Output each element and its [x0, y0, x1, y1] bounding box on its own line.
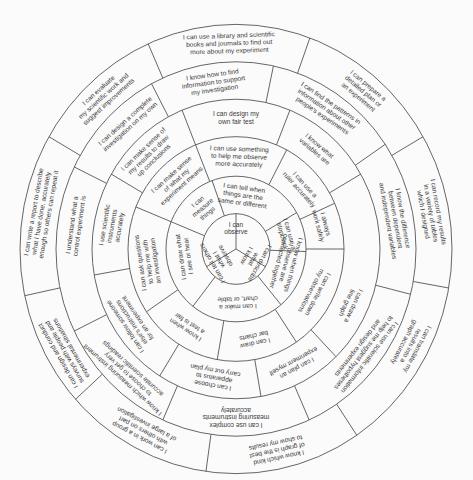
- skill-segment: I know which measuring instrumentto choo…: [82, 331, 174, 417]
- skill-segment: I can drawbar charts: [238, 329, 271, 350]
- skill-segment: I can use a library and scientificbooks …: [183, 30, 276, 56]
- segment-divider: [330, 174, 361, 193]
- segment-divider: [146, 290, 178, 312]
- segment-divider: [151, 84, 168, 117]
- segment-divider: [255, 360, 261, 397]
- skill-segment: I can record my resultsin a variety of t…: [414, 178, 449, 248]
- segment-divider: [74, 167, 106, 183]
- segment-divider: [217, 321, 224, 360]
- skill-segment: I can use aruler accurately: [281, 165, 323, 209]
- segment-divider: [136, 207, 171, 222]
- segment-divider: [74, 315, 106, 331]
- skill-text-line: more about my experiment: [190, 46, 269, 57]
- skill-segment: I understand what acontrol experiment is: [64, 194, 88, 257]
- segment-divider: [266, 66, 273, 103]
- skills-wheel-diagram: I canobserveI can describewhatI knowI ca…: [0, 0, 473, 480]
- skill-segment: I know how to findinformation to support…: [180, 66, 247, 98]
- segment-divider: [376, 285, 411, 294]
- skill-segment: I can chooseapparatus tocarry out my pla…: [187, 362, 241, 394]
- segment-divider: [196, 145, 210, 182]
- skill-text-line: more accurately: [215, 159, 263, 169]
- skill-text-line: own fair test: [218, 118, 254, 125]
- segment-divider: [392, 137, 423, 156]
- segment-divider: [171, 222, 204, 236]
- skill-segment: I can use somethingto help me observemor…: [209, 144, 269, 169]
- segment-divider: [206, 434, 211, 471]
- segment-divider: [295, 386, 310, 420]
- skill-segment: I know when thingsI observe areconnected…: [267, 233, 304, 294]
- skill-segment: I know whena test is fair: [168, 311, 207, 343]
- skill-segment: I use scientificinstrumentsaccurately: [97, 203, 127, 249]
- skill-segment: I can write a report to describewhat I h…: [22, 167, 60, 259]
- skill-segment: I can draw aline graph: [335, 285, 364, 324]
- segment-divider: [193, 277, 215, 307]
- skill-segment: I canmeasurethings: [185, 190, 220, 224]
- skill-text-line: I know which measuring instrument: [82, 342, 164, 417]
- skill-segment: I can work in a groupwith others on part…: [108, 405, 177, 457]
- segment-divider: [49, 137, 80, 156]
- segment-divider: [337, 404, 357, 435]
- segment-divider: [163, 386, 178, 420]
- skill-segment: I alwayswork safely: [310, 206, 334, 244]
- skill-text-line: chart, or table: [217, 295, 258, 303]
- skill-segment: I can tell whenthings are thesame or dif…: [217, 181, 269, 210]
- segment-divider: [94, 269, 129, 276]
- skill-segment: I can use scientific informationto help …: [326, 309, 401, 396]
- skill-segment: I canobserve: [224, 221, 248, 236]
- skill-text-line: I can: [229, 221, 244, 228]
- segment-divider: [298, 38, 310, 73]
- segment-divider: [269, 150, 287, 185]
- segment-divider: [25, 288, 60, 296]
- skill-segment: I can describewhatI know: [234, 236, 274, 283]
- skill-segment: I know which kindof graph is the bestto …: [247, 433, 307, 467]
- segment-divider: [355, 144, 385, 165]
- segment-divider: [111, 174, 142, 193]
- segment-divider: [413, 282, 448, 289]
- skill-segment: I can draw whatI see or hear: [174, 232, 195, 280]
- segment-divider: [160, 344, 179, 376]
- skill-segment: I can use complexmeasuring instrumentsac…: [202, 406, 269, 429]
- segment-divider: [276, 110, 289, 145]
- skill-segment: I can follow someoneelse's instructionsf…: [105, 290, 159, 355]
- segment-divider: [148, 44, 163, 78]
- skill-text-line: observe: [224, 228, 248, 235]
- segment-labels: I canobserveI can describewhatI knowI ca…: [22, 30, 448, 467]
- segment-divider: [182, 110, 195, 145]
- skill-segment: I know the differencebetween dependentan…: [377, 180, 413, 261]
- skill-segment: I can ask questionsto help me withan inv…: [133, 232, 164, 292]
- segment-divider: [275, 309, 296, 342]
- skill-text-line: accurately: [220, 406, 251, 414]
- skill-segment: I can make achart, or table: [217, 295, 258, 311]
- skill-segment: I can design myown fair test: [213, 110, 260, 125]
- skill-segment: I can plan anexperiment myself: [268, 345, 323, 384]
